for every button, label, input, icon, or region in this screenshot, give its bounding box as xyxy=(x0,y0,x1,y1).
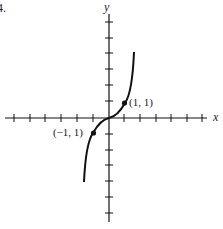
x-axis-label: x xyxy=(212,110,219,124)
y-axis-label: y xyxy=(103,0,110,14)
point-label-1-1: (1, 1) xyxy=(129,96,153,109)
point-1-1 xyxy=(122,100,127,105)
graph-canvas: 4. y x (1, 1) xyxy=(0,0,223,229)
point-neg1-neg1 xyxy=(91,130,96,135)
figure-number: 4. xyxy=(0,1,6,15)
point-label-neg1-1: (−1, 1) xyxy=(53,126,83,139)
